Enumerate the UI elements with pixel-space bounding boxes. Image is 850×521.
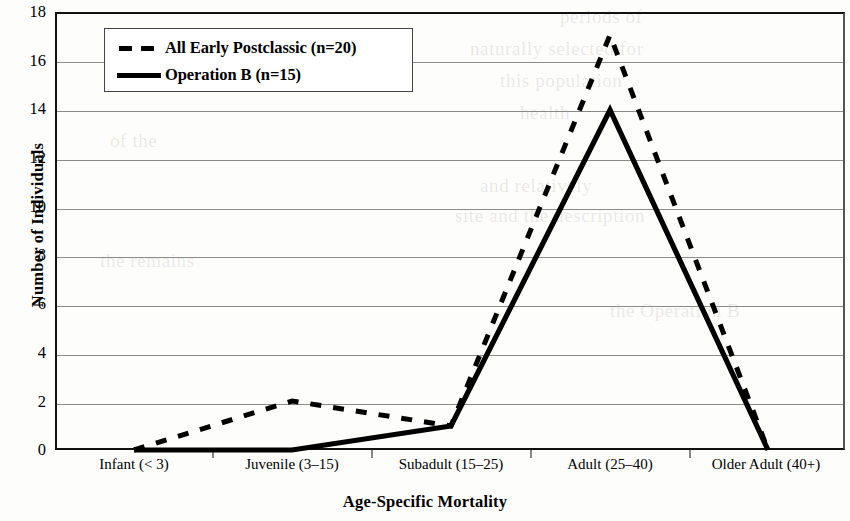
gridline [57, 160, 843, 161]
gridline [57, 306, 843, 307]
y-tick-label: 18 [12, 4, 46, 21]
x-tick-label-adult: Adult (25–40) [520, 457, 700, 472]
y-tick-label: 8 [12, 247, 46, 264]
y-tick-label: 6 [12, 296, 46, 313]
legend-label: Operation B (n=15) [165, 65, 301, 85]
y-tick-label: 16 [12, 53, 46, 70]
gridline [57, 404, 843, 405]
y-tick-label: 0 [12, 442, 46, 459]
legend-entry-operation-b: Operation B (n=15) [115, 61, 412, 88]
y-axis-title: Number of Individuals [28, 95, 48, 355]
chart-legend: All Early Postclassic (n=20) Operation B… [104, 28, 413, 92]
y-tick-label: 10 [12, 199, 46, 216]
x-tick-label-subadult: Subadult (15–25) [361, 457, 541, 472]
x-tick-label-older-adult: Older Adult (40+) [676, 457, 850, 472]
gridline [57, 209, 843, 210]
y-tick-label: 14 [12, 101, 46, 118]
chart-figure: periods of naturally selected for this p… [0, 0, 850, 521]
legend-label: All Early Postclassic (n=20) [165, 38, 356, 58]
y-tick-label: 4 [12, 345, 46, 362]
x-tick-label-juvenile: Juvenile (3–15) [202, 457, 382, 472]
gridline [57, 111, 843, 112]
solid-line-key [115, 69, 161, 81]
dashed-line-key [115, 42, 161, 54]
y-tick-label: 2 [12, 394, 46, 411]
y-tick-label: 12 [12, 150, 46, 167]
legend-entry-all-early-postclassic: All Early Postclassic (n=20) [115, 34, 412, 61]
gridline [57, 257, 843, 258]
gridline [57, 355, 843, 356]
x-tick-label-infant: Infant (< 3) [44, 457, 224, 472]
x-axis-title: Age-Specific Mortality [0, 492, 850, 512]
